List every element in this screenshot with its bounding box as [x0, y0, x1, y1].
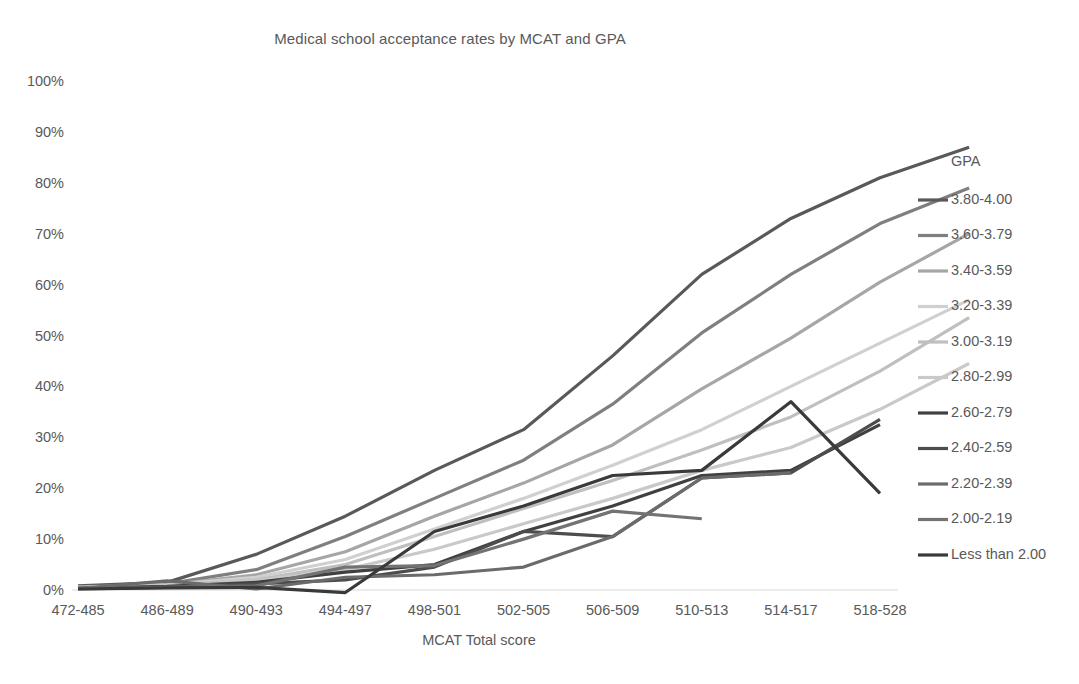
x-axis-tick-label: 514-517: [764, 602, 817, 618]
x-axis-tick-label: 498-501: [408, 602, 461, 618]
x-axis-tick-label: 518-528: [853, 602, 906, 618]
chart-container: Medical school acceptance rates by MCAT …: [0, 0, 1079, 684]
legend-title: GPA: [951, 153, 981, 169]
x-axis-tick-label: 490-493: [230, 602, 283, 618]
series-lines: [78, 147, 969, 592]
y-axis-tick-label: 50%: [35, 328, 64, 344]
legend: 3.80-4.003.60-3.793.40-3.593.20-3.393.00…: [918, 191, 1046, 562]
legend-item-label: 3.20-3.39: [951, 297, 1012, 313]
y-axis-tick-label: 10%: [35, 531, 64, 547]
x-axis-tick-label: 510-513: [675, 602, 728, 618]
x-axis-tick-label: 506-509: [586, 602, 639, 618]
x-axis-tick-label: 472-485: [51, 602, 104, 618]
legend-item-label: 3.60-3.79: [951, 226, 1012, 242]
legend-item-label: 2.40-2.59: [951, 439, 1012, 455]
x-axis-tick-label: 502-505: [497, 602, 550, 618]
legend-item-label: 2.60-2.79: [951, 404, 1012, 420]
y-axis-tick-label: 100%: [27, 73, 64, 89]
x-axis-tick-label: 486-489: [141, 602, 194, 618]
y-axis-tick-label: 30%: [35, 429, 64, 445]
x-axis-tick-label: 494-497: [319, 602, 372, 618]
legend-item-label: 3.80-4.00: [951, 191, 1012, 207]
y-axis-tick-label: 40%: [35, 378, 64, 394]
series-line-3-60-3-79: [78, 188, 969, 587]
series-line-2-80-2-99: [78, 363, 969, 587]
legend-item-label: 2.80-2.99: [951, 368, 1012, 384]
y-axis-tick-label: 80%: [35, 175, 64, 191]
x-axis-tick-labels: 472-485486-489490-493494-497498-501502-5…: [51, 602, 906, 618]
legend-item-label: 2.20-2.39: [951, 475, 1012, 491]
series-line-2-40-2-59: [78, 419, 880, 588]
legend-item-label: Less than 2.00: [951, 546, 1046, 562]
y-axis-tick-label: 70%: [35, 226, 64, 242]
series-line-3-80-4-00: [78, 147, 969, 586]
series-line-3-40-3-59: [78, 234, 969, 588]
y-axis-tick-label: 60%: [35, 277, 64, 293]
y-axis-tick-label: 20%: [35, 480, 64, 496]
series-line-less-than-2-00: [78, 402, 880, 593]
legend-item-label: 3.00-3.19: [951, 333, 1012, 349]
y-axis-tick-labels: 0%10%20%30%40%50%60%70%80%90%100%: [27, 73, 64, 598]
legend-item-label: 3.40-3.59: [951, 262, 1012, 278]
line-chart-plot: 0%10%20%30%40%50%60%70%80%90%100% 472-48…: [0, 0, 1079, 684]
series-line-3-20-3-39: [78, 300, 969, 588]
y-axis-tick-label: 90%: [35, 124, 64, 140]
legend-item-label: 2.00-2.19: [951, 510, 1012, 526]
series-line-3-00-3-19: [78, 318, 969, 588]
y-axis-tick-label: 0%: [43, 582, 64, 598]
x-axis-title: MCAT Total score: [422, 632, 536, 648]
